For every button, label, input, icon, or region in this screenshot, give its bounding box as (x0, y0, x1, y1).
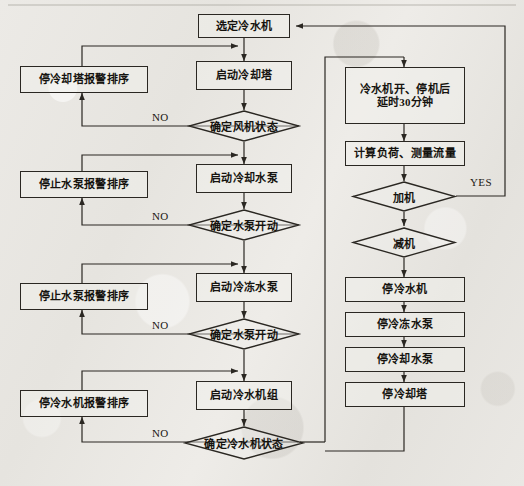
node-add-machine[interactable]: 加机 (352, 181, 456, 212)
node-stop-cooling-tower[interactable]: 停冷却塔 (345, 382, 465, 407)
node-stop-chiller-alarm[interactable]: 停冷水机报警排序 (20, 390, 148, 417)
node-start-chilled-pump[interactable]: 启动冷冻水泵 (196, 273, 292, 302)
node-reduce-machine-label: 减机 (352, 227, 456, 258)
node-calc-load-flow[interactable]: 计算负荷、测量流量 (345, 141, 465, 166)
node-check-fan-status-label: 确定风机状态 (188, 110, 300, 142)
node-stop-pump-alarm-2[interactable]: 停止水泵报警排序 (20, 283, 148, 310)
node-stop-pump-alarm-1[interactable]: 停止水泵报警排序 (20, 171, 148, 198)
node-check-pump-start-2-label: 确定水泵开动 (188, 318, 300, 350)
node-start-cooling-tower[interactable]: 启动冷却塔 (196, 61, 292, 90)
edge-label-no-4: NO (152, 427, 169, 439)
edge-label-no-3: NO (152, 319, 169, 331)
node-start-chiller-unit[interactable]: 启动冷水机组 (196, 381, 292, 410)
node-check-chiller-status-label: 确定冷水机状态 (184, 426, 304, 460)
node-check-pump-start-2[interactable]: 确定水泵开动 (188, 318, 300, 350)
edge-label-yes-1: YES (470, 176, 492, 188)
node-check-pump-start-1-label: 确定水泵开动 (188, 209, 300, 241)
node-stop-chiller[interactable]: 停冷水机 (345, 277, 465, 302)
node-reduce-machine[interactable]: 减机 (352, 227, 456, 258)
node-check-fan-status[interactable]: 确定风机状态 (188, 110, 300, 142)
node-add-machine-label: 加机 (352, 181, 456, 212)
node-stop-chilled-pump[interactable]: 停冷冻水泵 (345, 312, 465, 337)
node-select-chiller[interactable]: 选定冷水机 (198, 14, 290, 38)
node-stop-cooling-pump[interactable]: 停冷却水泵 (345, 347, 465, 372)
edge-label-no-1: NO (152, 111, 169, 123)
node-stop-tower-alarm[interactable]: 停冷却塔报警排序 (20, 66, 148, 93)
flowchart-canvas: 选定冷水机 启动冷却塔 确定风机状态 启动冷却水泵 确定水泵开动 启动冷冻水泵 … (0, 0, 524, 486)
node-check-chiller-status[interactable]: 确定冷水机状态 (184, 426, 304, 460)
node-check-pump-start-1[interactable]: 确定水泵开动 (188, 209, 300, 241)
node-start-cooling-pump[interactable]: 启动冷却水泵 (196, 164, 292, 193)
node-delay-30min[interactable]: 冷水机开、停机后 延时30分钟 (345, 67, 465, 124)
node-delay-30min-line2: 延时30分钟 (377, 96, 434, 109)
node-delay-30min-line1: 冷水机开、停机后 (360, 83, 450, 96)
edge-label-no-2: NO (152, 210, 169, 222)
